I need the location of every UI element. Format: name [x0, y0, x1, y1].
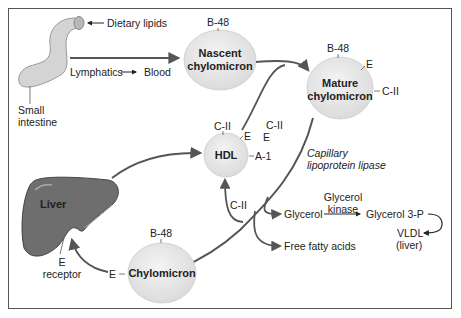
vldl-label-line2: (liver)	[396, 239, 422, 251]
e-receptor-line1: E	[42, 256, 82, 268]
nascent-label-line1: Nascent	[184, 47, 256, 59]
blood-label: Blood	[144, 66, 171, 78]
liver-icon	[22, 177, 118, 256]
mature-apo-c2: C-II	[382, 85, 399, 97]
remnant-apo-e: E	[109, 268, 116, 280]
lipase-label-line1: Capillary	[307, 147, 348, 159]
vldl-label-line1: VLDL	[397, 227, 423, 239]
mature-apo-b48: B-48	[327, 42, 349, 54]
to-glycerol-arrow	[264, 197, 280, 214]
glycerol-kinase-line2: kinase	[318, 203, 368, 215]
dietary-lipids-label: Dietary lipids	[107, 17, 167, 29]
mature-apo-e: E	[366, 58, 373, 70]
small-intestine-label-line2: intestine	[18, 116, 57, 128]
g3p-to-vldl-arrow	[424, 214, 442, 233]
remnant-apo-b48: B-48	[150, 227, 172, 239]
glycerol-label: Glycerol	[284, 208, 323, 220]
nascent-apo-b48: B-48	[207, 16, 229, 28]
small-intestine-icon	[19, 17, 84, 105]
lipase-label-line2: lipoprotein lipase	[307, 159, 386, 171]
hdl-label: HDL	[206, 149, 246, 161]
small-intestine-label-line1: Small	[18, 104, 44, 116]
hdl-return-c2: C-II	[230, 199, 247, 211]
to-ffa-arrow	[254, 211, 280, 246]
mature-label-line2: chylomicron	[304, 90, 376, 102]
mature-label-line1: Mature	[304, 77, 376, 89]
hdl-apo-a1: A-1	[255, 150, 271, 162]
lymphatics-label: Lymphatics	[70, 66, 123, 78]
liver-to-hdl-arrow	[112, 153, 200, 178]
nascent-label-line2: chylomicron	[184, 60, 256, 72]
transfer-e-label: E	[263, 131, 270, 143]
glycerol-3p-label: Glycerol 3-P	[366, 208, 424, 220]
transfer-c2-label: C-II	[266, 119, 283, 131]
e-receptor-line2: receptor	[37, 268, 87, 280]
ffa-label: Free fatty acids	[284, 240, 356, 252]
glycerol-kinase-line1: Glycerol	[318, 191, 368, 203]
remnant-label: Chylomicron	[124, 267, 200, 279]
hdl-apo-c2: C-II	[214, 120, 231, 132]
hdl-apo-e: E	[244, 130, 251, 142]
liver-label: Liver	[40, 198, 80, 210]
